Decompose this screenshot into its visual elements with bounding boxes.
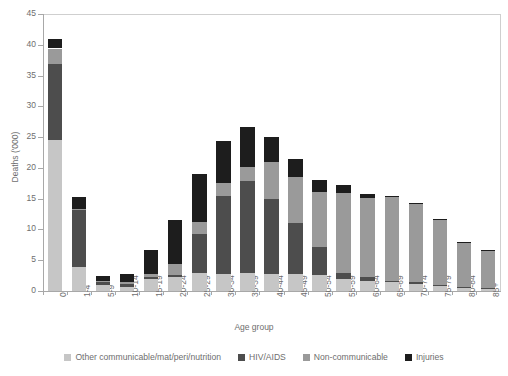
bar-75-79[interactable] xyxy=(433,14,447,291)
bar-segment xyxy=(264,137,278,162)
legend-label: Other communicable/mat/peri/nutrition xyxy=(75,352,221,362)
bar-segment xyxy=(96,282,110,285)
bar-segment xyxy=(240,181,254,273)
bar-segment xyxy=(433,219,447,220)
x-axis-tick xyxy=(67,291,68,295)
bar-segment xyxy=(144,279,158,291)
bar-segment xyxy=(168,220,182,264)
bar-65-69[interactable] xyxy=(385,14,399,291)
bar-segment xyxy=(312,247,326,275)
x-axis-tick xyxy=(428,291,429,295)
bar-segment xyxy=(192,174,206,222)
chart-legend: Other communicable/mat/peri/nutritionHIV… xyxy=(0,352,508,362)
bar-25-29[interactable] xyxy=(192,14,206,291)
legend-swatch-icon xyxy=(405,354,412,361)
x-axis-tick xyxy=(404,291,405,295)
legend-item-1[interactable]: HIV/AIDS xyxy=(238,352,286,362)
bar-segment xyxy=(168,264,182,275)
bar-40-44[interactable] xyxy=(264,14,278,291)
bar-0[interactable] xyxy=(48,14,62,291)
bar-segment xyxy=(312,192,326,247)
bar-segment xyxy=(192,222,206,234)
bar-segment xyxy=(385,282,399,291)
legend-item-2[interactable]: Non-communicable xyxy=(303,352,388,362)
plot-border-right xyxy=(500,14,501,292)
bar-segment xyxy=(168,277,182,291)
x-axis-tick xyxy=(139,291,140,295)
bar-segment xyxy=(288,159,302,177)
x-axis-tick xyxy=(380,291,381,295)
y-axis-tick-label: 0 xyxy=(10,286,36,295)
bar-segment xyxy=(168,275,182,277)
legend-item-3[interactable]: Injuries xyxy=(405,352,444,362)
bar-segment xyxy=(72,209,86,211)
bar-segment xyxy=(433,220,447,285)
legend-swatch-icon xyxy=(303,354,310,361)
bar-segment xyxy=(144,277,158,279)
bar-segment xyxy=(481,289,495,291)
bar-segment xyxy=(96,281,110,283)
x-axis-title: Age group xyxy=(0,322,508,332)
legend-swatch-icon xyxy=(64,354,71,361)
bar-segment xyxy=(96,276,110,281)
bar-segment xyxy=(312,275,326,291)
bar-segment xyxy=(360,194,374,198)
bar-segment xyxy=(457,242,471,243)
x-axis-tick xyxy=(211,291,212,295)
bar-60-64[interactable] xyxy=(360,14,374,291)
legend-label: HIV/AIDS xyxy=(249,352,286,362)
bar-segment xyxy=(481,250,495,251)
bar-segment xyxy=(72,197,86,209)
bar-segment xyxy=(120,282,134,284)
bar-segment xyxy=(385,281,399,283)
y-axis-tick-label: 40 xyxy=(10,40,36,49)
bar-segment xyxy=(48,140,62,291)
bar-segment xyxy=(409,284,423,291)
bar-segment xyxy=(192,273,206,291)
bar-85+[interactable] xyxy=(481,14,495,291)
bar-segment xyxy=(433,285,447,286)
stacked-bar-chart: Deaths ('000) 051015202530354045 01-45-9… xyxy=(0,0,508,376)
bar-segment xyxy=(481,288,495,289)
bar-segment xyxy=(192,234,206,273)
bar-5-9[interactable] xyxy=(96,14,110,291)
bar-segment xyxy=(48,39,62,49)
bar-segment xyxy=(385,196,399,198)
bar-45-49[interactable] xyxy=(288,14,302,291)
legend-label: Non-communicable xyxy=(314,352,388,362)
bar-segment xyxy=(385,197,399,280)
bar-20-24[interactable] xyxy=(168,14,182,291)
x-axis-tick xyxy=(452,291,453,295)
bar-15-19[interactable] xyxy=(144,14,158,291)
bar-35-39[interactable] xyxy=(240,14,254,291)
bar-segment xyxy=(144,250,158,275)
y-axis-tick-label: 25 xyxy=(10,132,36,141)
bar-1-4[interactable] xyxy=(72,14,86,291)
bar-70-74[interactable] xyxy=(409,14,423,291)
x-axis-tick xyxy=(259,291,260,295)
bar-segment xyxy=(120,284,134,287)
bar-segment xyxy=(48,64,62,140)
x-axis-tick xyxy=(308,291,309,295)
bar-segment xyxy=(409,282,423,283)
legend-label: Injuries xyxy=(416,352,444,362)
bar-10-14[interactable] xyxy=(120,14,134,291)
y-axis-tick-label: 30 xyxy=(10,101,36,110)
bar-segment xyxy=(457,242,471,287)
bar-segment xyxy=(264,199,278,274)
bar-55-59[interactable] xyxy=(336,14,350,291)
bar-80-84[interactable] xyxy=(457,14,471,291)
x-axis-tick xyxy=(187,291,188,295)
bar-segment xyxy=(360,281,374,291)
bar-segment xyxy=(216,274,230,291)
x-axis-tick xyxy=(43,291,44,295)
bar-segment xyxy=(240,127,254,167)
bar-50-54[interactable] xyxy=(312,14,326,291)
x-axis-tick xyxy=(476,291,477,295)
legend-item-0[interactable]: Other communicable/mat/peri/nutrition xyxy=(64,352,221,362)
bar-30-34[interactable] xyxy=(216,14,230,291)
bar-segment xyxy=(96,285,110,291)
bar-segment xyxy=(72,267,86,291)
bar-segment xyxy=(144,274,158,276)
y-axis-tick-label: 35 xyxy=(10,71,36,80)
